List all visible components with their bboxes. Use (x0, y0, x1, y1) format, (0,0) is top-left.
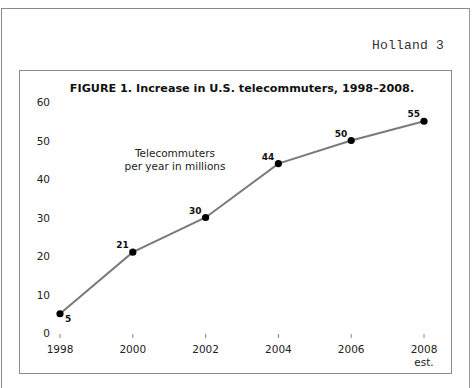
series-annotation-line2: per year in millions (125, 160, 226, 172)
data-point-label: 44 (262, 152, 275, 162)
x-tick-label: 2006 (338, 343, 365, 355)
data-point-marker (129, 249, 136, 256)
data-point-label: 50 (335, 129, 348, 139)
data-point-label: 5 (65, 314, 71, 324)
data-point-marker (420, 118, 427, 125)
x-tick-label: 2008 (411, 343, 438, 355)
chart-title: FIGURE 1. Increase in U.S. telecommuters… (70, 82, 414, 95)
data-point-marker (275, 160, 282, 167)
series-line (60, 121, 424, 314)
data-point-marker (348, 137, 355, 144)
data-point-label: 21 (116, 240, 129, 250)
x-tick-sublabel: est. (414, 356, 433, 368)
y-tick-label: 0 (43, 327, 50, 339)
x-tick-label: 2002 (192, 343, 219, 355)
y-tick-label: 40 (37, 173, 50, 185)
y-tick-label: 60 (37, 96, 50, 108)
data-point-marker (56, 310, 63, 317)
data-point-marker (202, 214, 209, 221)
x-tick-label: 2004 (265, 343, 292, 355)
series-annotation-line1: Telecommuters (134, 147, 215, 159)
x-tick-label: 1998 (47, 343, 74, 355)
x-axis: 199820002002200420062008est. (47, 334, 438, 368)
y-tick-label: 20 (37, 250, 50, 262)
y-axis-labels: 0102030405060 (37, 96, 50, 339)
y-tick-label: 50 (37, 135, 50, 147)
x-tick-label: 2000 (119, 343, 146, 355)
data-point-label: 55 (407, 109, 420, 119)
data-point-label: 30 (189, 206, 202, 216)
y-tick-label: 10 (37, 289, 50, 301)
data-series: 52130445055 (56, 109, 427, 324)
y-tick-label: 30 (37, 212, 50, 224)
